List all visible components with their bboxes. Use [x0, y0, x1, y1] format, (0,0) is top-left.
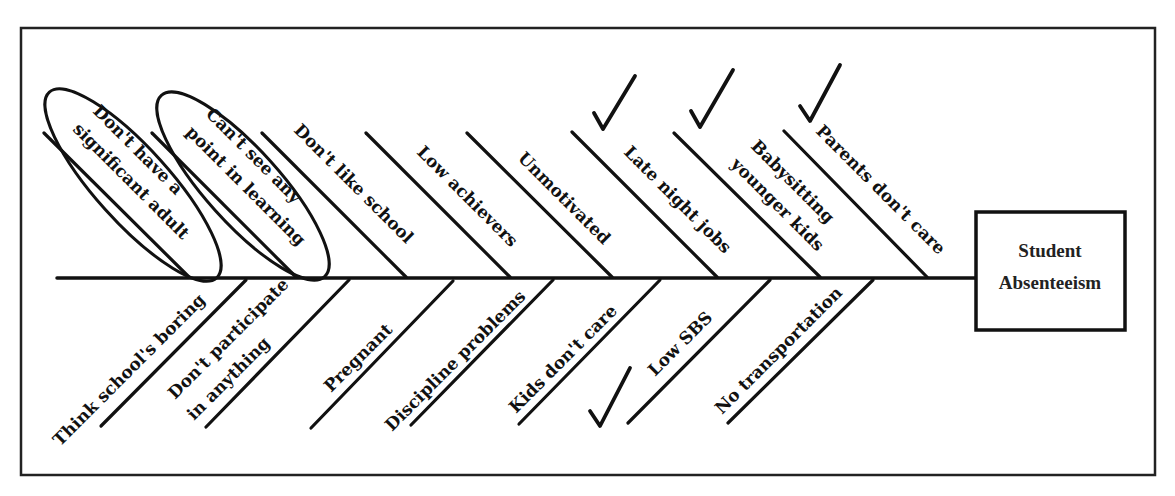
cause-label: Kids don't care [505, 301, 621, 417]
lower-cause-school-boring: Think school's boring [49, 280, 246, 450]
cause-label: Don't like school [290, 120, 418, 248]
check-mark-icon [594, 76, 635, 129]
cause-label: No transportation [711, 282, 846, 417]
upper-cause-babysitting: Babysitting younger kids [674, 70, 839, 277]
lower-cause-low-ses: Low SBS [590, 280, 770, 426]
fishbone-diagram: Student Absenteeism Don't have a signifi… [0, 0, 1175, 496]
effect-box: Student Absenteeism [976, 212, 1125, 330]
cause-label: Unmotivated [514, 148, 615, 249]
cause-label: Discipline problems [381, 286, 530, 435]
check-mark-icon [590, 368, 630, 426]
effect-label-line-2: Absenteeism [999, 272, 1102, 293]
check-mark-icon [800, 65, 840, 121]
effect-label-line-1: Student [1018, 240, 1082, 261]
upper-cause-significant-adult: Don't have a significant adult [22, 67, 244, 302]
check-mark-icon [691, 70, 733, 127]
cause-label: Pregnant [320, 319, 396, 395]
cause-label: Parents don't care [812, 121, 950, 259]
lower-cause-no-transportation: No transportation [711, 280, 873, 423]
lower-cause-discipline-problems: Discipline problems [381, 280, 553, 435]
